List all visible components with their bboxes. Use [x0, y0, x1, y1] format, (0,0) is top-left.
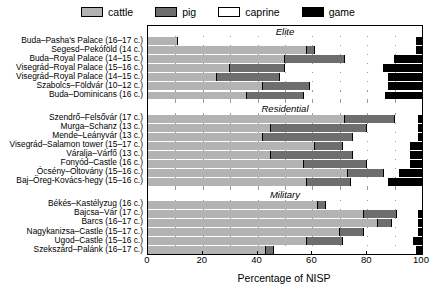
legend-label: caprine: [245, 7, 279, 17]
bar-row: [148, 37, 422, 45]
bar-segment-cattle: [148, 237, 307, 245]
x-tick-0: 0: [144, 255, 149, 265]
chart-legend: cattlepigcaprinegame: [0, 4, 436, 20]
x-tickmark-20: [202, 251, 203, 255]
group-band-residential: Residential: [148, 103, 422, 113]
bar-row: [148, 142, 422, 150]
bar-segment-game: [414, 237, 422, 245]
bar-segment-pig: [271, 124, 367, 132]
y-axis-labels: Buda–Pasha's Palace (16–17 c.)Segesd–Pek…: [0, 25, 145, 253]
bar-segment-game: [389, 82, 422, 90]
bar-segment-pig: [307, 46, 315, 54]
bar-segment-game: [419, 219, 422, 227]
site-century: (16 c.): [119, 90, 143, 98]
bar-segment-game: [419, 115, 422, 123]
bar-row: [148, 210, 422, 218]
bar-segment-cattle: [148, 124, 271, 132]
bar-segment-cattle: [148, 219, 378, 227]
site-name: Baj–Öreg-Kovács-hegy: [16, 175, 103, 185]
legend-label: game: [329, 7, 355, 17]
x-axis-ticks: 020406080100: [0, 255, 436, 269]
site-century: (16–17 c.): [105, 217, 143, 225]
x-tick-60: 60: [306, 255, 317, 265]
bar-segment-caprine: [367, 124, 419, 132]
bar-segment-game: [386, 92, 422, 100]
y-axis-label: Buda–Dominicans (16 c.): [49, 90, 143, 98]
bar-row: [148, 246, 422, 254]
bar-row: [148, 160, 422, 168]
bar-segment-cattle: [148, 46, 307, 54]
bar-segment-cattle: [148, 133, 263, 141]
bar-segment-caprine: [364, 228, 419, 236]
bar-row: [148, 237, 422, 245]
bar-segment-game: [419, 210, 422, 218]
bar-segment-game: [411, 160, 422, 168]
bar-segment-cattle: [148, 92, 247, 100]
x-tickmark-60: [311, 251, 312, 255]
bar-row: [148, 115, 422, 123]
bar-segment-pig: [263, 82, 310, 90]
group-band-label: Military: [270, 189, 300, 200]
bar-segment-pig: [318, 201, 326, 209]
bar-segment-caprine: [315, 46, 416, 54]
bar-segment-game: [395, 55, 422, 63]
bar-segment-caprine: [343, 142, 412, 150]
bar-row: [148, 151, 422, 159]
bar-segment-cattle: [148, 115, 345, 123]
bar-segment-cattle: [148, 151, 271, 159]
bar-segment-caprine: [351, 178, 389, 186]
bar-row: [148, 73, 422, 81]
bar-segment-caprine: [353, 133, 419, 141]
bar-segment-cattle: [148, 228, 340, 236]
bar-segment-game: [411, 142, 422, 150]
bar-row: [148, 55, 422, 63]
bar-segment-pig: [307, 237, 343, 245]
bar-segment-caprine: [397, 210, 419, 218]
site-name: Szekszárd–Palánk: [34, 244, 103, 254]
group-band-label: Elite: [276, 26, 294, 37]
bar-segment-pig: [315, 142, 342, 150]
bar-row: [148, 82, 422, 90]
bar-segment-cattle: [148, 169, 348, 177]
site-century: (15–17 c.): [105, 227, 143, 235]
bar-segment-cattle: [148, 246, 266, 254]
bar-segment-game: [419, 133, 422, 141]
group-band-elite: Elite: [148, 26, 422, 36]
bar-segment-caprine: [392, 219, 419, 227]
group-band-label: Residential: [262, 103, 309, 114]
chart-root: cattlepigcaprinegame Buda–Pasha's Palace…: [0, 0, 436, 294]
bar-segment-caprine: [384, 169, 400, 177]
bar-segment-pig: [307, 178, 351, 186]
x-tickmark-80: [366, 251, 367, 255]
bar-row: [148, 219, 422, 227]
legend-item-pig: pig: [155, 7, 196, 17]
bar-segment-pig: [230, 64, 285, 72]
bar-segment-pig: [378, 219, 392, 227]
bar-segment-caprine: [343, 237, 414, 245]
bar-segment-cattle: [148, 178, 307, 186]
bar-segment-caprine: [345, 55, 394, 63]
bar-segment-game: [389, 73, 422, 81]
bar-segment-caprine: [367, 160, 411, 168]
bar-row: [148, 64, 422, 72]
legend-item-cattle: cattle: [81, 7, 133, 17]
bar-segment-cattle: [148, 210, 364, 218]
group-band-military: Military: [148, 190, 422, 200]
x-tickmark-40: [257, 251, 258, 255]
bar-row: [148, 46, 422, 54]
bar-row: [148, 178, 422, 186]
bar-segment-caprine: [353, 151, 411, 159]
bar-segment-cattle: [148, 73, 217, 81]
bar-segment-cattle: [148, 82, 263, 90]
bar-segment-cattle: [148, 160, 304, 168]
bar-segment-game: [389, 178, 422, 186]
square-swatch-icon: [218, 7, 240, 17]
site-century: (15–16 c.): [105, 176, 143, 184]
bar-segment-pig: [266, 246, 274, 254]
bar-segment-game: [417, 46, 422, 54]
bar-row: [148, 228, 422, 236]
bar-segment-cattle: [148, 201, 318, 209]
bar-segment-game: [400, 169, 422, 177]
bar-segment-pig: [345, 115, 394, 123]
bar-segment-caprine: [395, 115, 420, 123]
